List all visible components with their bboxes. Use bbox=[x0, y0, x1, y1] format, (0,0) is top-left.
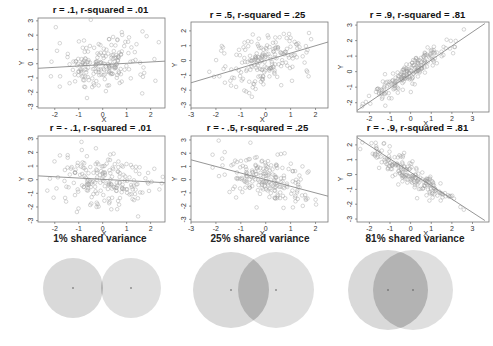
svg-text:-1: -1 bbox=[387, 225, 393, 232]
svg-text:-3: -3 bbox=[180, 216, 187, 222]
svg-text:1: 1 bbox=[346, 158, 353, 162]
svg-text:-3: -3 bbox=[180, 102, 187, 108]
svg-text:1: 1 bbox=[346, 54, 353, 58]
y-axis-label: Y bbox=[17, 176, 26, 181]
svg-text:0: 0 bbox=[346, 70, 353, 74]
svg-text:-2: -2 bbox=[27, 89, 34, 95]
svg-text:-2: -2 bbox=[180, 87, 187, 93]
svg-text:0: 0 bbox=[180, 59, 187, 63]
svg-text:-2: -2 bbox=[346, 201, 353, 207]
x-axis-label: X bbox=[102, 229, 107, 238]
svg-text:-2: -2 bbox=[52, 225, 58, 232]
y-axis-label: Y bbox=[17, 60, 26, 65]
scatter-plot-4: -2-1012-3-2-10123XY bbox=[17, 136, 165, 238]
svg-text:0: 0 bbox=[27, 62, 34, 66]
svg-text:2: 2 bbox=[149, 111, 153, 118]
scatter-plot-6: -2-10123-3-2-1012XY bbox=[336, 136, 489, 238]
svg-text:1: 1 bbox=[429, 115, 433, 122]
svg-text:2: 2 bbox=[450, 115, 454, 122]
svg-text:1: 1 bbox=[27, 164, 34, 168]
svg-text:-2: -2 bbox=[366, 115, 372, 122]
svg-text:-1: -1 bbox=[238, 225, 244, 232]
x-axis-label: X bbox=[423, 229, 428, 238]
svg-text:2: 2 bbox=[180, 29, 187, 33]
svg-text:0: 0 bbox=[27, 178, 34, 182]
svg-text:-1: -1 bbox=[238, 111, 244, 118]
svg-text:2: 2 bbox=[180, 151, 187, 155]
y-axis-label: Y bbox=[336, 64, 345, 69]
y-axis-label: Y bbox=[336, 176, 345, 181]
plot-frame bbox=[357, 136, 489, 222]
svg-text:-1: -1 bbox=[346, 186, 353, 192]
svg-text:1: 1 bbox=[27, 47, 34, 51]
scatter-plot-1: -2-1012-3-2-10123XY bbox=[17, 18, 165, 124]
svg-text:0: 0 bbox=[180, 178, 187, 182]
svg-text:1: 1 bbox=[289, 111, 293, 118]
scatter-plot-2: -3-2-1012-3-2-1012XY bbox=[170, 22, 328, 124]
svg-text:2: 2 bbox=[346, 143, 353, 147]
svg-text:-1: -1 bbox=[76, 111, 82, 118]
svg-text:3: 3 bbox=[27, 137, 34, 141]
svg-text:-3: -3 bbox=[188, 111, 194, 118]
svg-text:1: 1 bbox=[289, 225, 293, 232]
svg-text:1: 1 bbox=[125, 111, 129, 118]
svg-text:2: 2 bbox=[314, 111, 318, 118]
svg-text:-1: -1 bbox=[27, 75, 34, 81]
svg-text:1: 1 bbox=[125, 225, 129, 232]
svg-text:-2: -2 bbox=[346, 99, 353, 105]
svg-text:0: 0 bbox=[409, 115, 413, 122]
svg-text:0: 0 bbox=[409, 225, 413, 232]
scatter-plot-5: -3-2-1012-3-2-10123XY bbox=[170, 136, 328, 238]
svg-text:-1: -1 bbox=[76, 225, 82, 232]
svg-text:-2: -2 bbox=[213, 225, 219, 232]
y-axis-label: Y bbox=[170, 176, 179, 181]
svg-text:-3: -3 bbox=[188, 225, 194, 232]
svg-text:1: 1 bbox=[429, 225, 433, 232]
svg-text:3: 3 bbox=[346, 23, 353, 27]
svg-text:1: 1 bbox=[180, 164, 187, 168]
svg-text:-2: -2 bbox=[52, 111, 58, 118]
svg-text:-1: -1 bbox=[346, 84, 353, 90]
svg-text:-2: -2 bbox=[180, 203, 187, 209]
svg-text:3: 3 bbox=[180, 138, 187, 142]
svg-text:-1: -1 bbox=[180, 190, 187, 196]
svg-text:-3: -3 bbox=[27, 217, 34, 223]
x-axis-label: X bbox=[102, 115, 107, 124]
venn-diagram-2 bbox=[193, 252, 314, 328]
x-axis-label: X bbox=[260, 229, 265, 238]
svg-text:3: 3 bbox=[27, 19, 34, 23]
svg-text:3: 3 bbox=[471, 225, 475, 232]
svg-text:-1: -1 bbox=[180, 72, 187, 78]
x-axis-label: X bbox=[260, 115, 265, 124]
x-axis-label: X bbox=[423, 119, 428, 128]
svg-text:2: 2 bbox=[450, 225, 454, 232]
scatter-plot-3: -2-10123-2-10123XY bbox=[336, 22, 489, 128]
svg-text:-3: -3 bbox=[346, 216, 353, 222]
svg-text:-1: -1 bbox=[387, 115, 393, 122]
svg-text:2: 2 bbox=[346, 39, 353, 43]
svg-text:2: 2 bbox=[27, 150, 34, 154]
svg-text:-1: -1 bbox=[27, 190, 34, 196]
svg-text:-2: -2 bbox=[27, 204, 34, 210]
chart-canvas: -2-1012-3-2-10123XY-3-2-1012-3-2-1012XY-… bbox=[0, 0, 493, 346]
svg-text:2: 2 bbox=[314, 225, 318, 232]
svg-text:-2: -2 bbox=[366, 225, 372, 232]
svg-text:-3: -3 bbox=[27, 103, 34, 109]
svg-text:-2: -2 bbox=[213, 111, 219, 118]
y-axis-label: Y bbox=[170, 62, 179, 67]
svg-text:2: 2 bbox=[149, 225, 153, 232]
svg-text:0: 0 bbox=[346, 173, 353, 177]
svg-text:1: 1 bbox=[180, 44, 187, 48]
svg-text:3: 3 bbox=[471, 115, 475, 122]
svg-text:2: 2 bbox=[27, 33, 34, 37]
venn-diagram-1 bbox=[43, 258, 161, 318]
venn-diagram-3 bbox=[348, 250, 453, 330]
